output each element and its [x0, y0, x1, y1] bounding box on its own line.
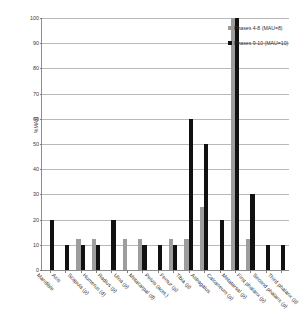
bar-group: [181, 18, 196, 270]
bar-group: [104, 18, 119, 270]
bar: [50, 220, 54, 270]
bar: [173, 245, 177, 270]
bar-group: [227, 18, 242, 270]
bar-group: [274, 18, 289, 270]
bar: [235, 18, 239, 270]
legend-item: Phases 4-8 (MAU=8): [228, 25, 307, 31]
bar-group: [243, 18, 258, 270]
bar-group: [42, 18, 57, 270]
bar: [250, 194, 254, 270]
bar: [266, 245, 270, 270]
bar-group: [196, 18, 211, 270]
bar-group: [73, 18, 88, 270]
bar-group: [166, 18, 181, 270]
bar-group: [212, 18, 227, 270]
bar: [158, 245, 162, 270]
bar: [220, 220, 224, 270]
bar-group: [258, 18, 273, 270]
bar-group: [150, 18, 165, 270]
legend-item-label: Phases 9-10 (MAU=10): [234, 40, 288, 46]
y-axis-tick-label: 50: [33, 141, 39, 147]
bar: [189, 119, 193, 270]
bar-series-container: [42, 18, 289, 270]
y-axis-tick-label: 40: [33, 166, 39, 172]
bar: [281, 245, 285, 270]
legend-item-label: Phases 4-8 (MAU=8): [234, 25, 283, 31]
y-axis-tick-label: 30: [33, 191, 39, 197]
bar: [65, 245, 69, 270]
bar-group: [119, 18, 134, 270]
bar: [142, 245, 146, 270]
bar: [123, 239, 127, 271]
bar-group: [88, 18, 103, 270]
x-axis-tick-label: Axis: [51, 272, 62, 283]
y-axis-tick-label: 80: [33, 65, 39, 71]
y-axis-tick-label: 10: [33, 242, 39, 248]
chart-legend: Phases 4-8 (MAU=8)Phases 9-10 (MAU=10): [228, 25, 307, 55]
y-axis-tick-label: 100: [30, 15, 39, 21]
y-axis-tick-label: 20: [33, 217, 39, 223]
y-axis-tick-label: 90: [33, 40, 39, 46]
bar: [111, 220, 115, 270]
legend-swatch-icon: [228, 26, 232, 30]
y-axis-tick-label: 70: [33, 91, 39, 97]
bar-chart: %MAU 0102030405060708090100 MandibleAxis…: [0, 0, 307, 335]
bar: [81, 245, 85, 270]
bar: [204, 144, 208, 270]
y-axis-tick-label: 60: [33, 116, 39, 122]
y-axis-tick-mark: [40, 270, 43, 271]
bar-group: [57, 18, 72, 270]
legend-item: Phases 9-10 (MAU=10): [228, 40, 307, 46]
plot-area: 0102030405060708090100: [41, 18, 289, 271]
legend-swatch-icon: [228, 41, 232, 45]
bar: [96, 245, 100, 270]
x-axis-labels: MandibleAxisScapula (p)Humerus (d)Radius…: [41, 272, 288, 334]
bar-group: [135, 18, 150, 270]
